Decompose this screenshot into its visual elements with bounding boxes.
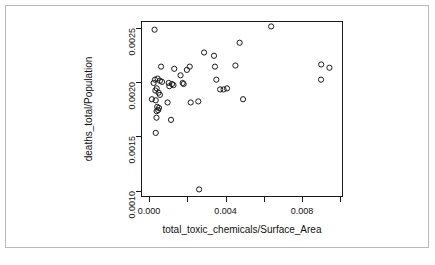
data-point [240, 97, 245, 102]
x-axis-tick [149, 197, 150, 202]
data-point [178, 73, 183, 78]
data-point [233, 63, 238, 68]
data-point [152, 27, 157, 32]
x-axis-tick [264, 197, 265, 202]
data-point [212, 64, 217, 69]
y-axis-tick [136, 82, 141, 83]
data-point [327, 65, 332, 70]
x-axis-title: total_toxic_chemicals/Surface_Area [141, 224, 343, 235]
data-point [237, 40, 242, 45]
y-axis-tick-label: 0.0015 [127, 136, 137, 164]
plot-area: 0.00100.00150.00200.00250.0000.0040.008 [141, 21, 343, 197]
data-point [197, 187, 202, 192]
x-axis-tick [187, 197, 188, 202]
data-point [151, 80, 156, 85]
data-point [172, 66, 177, 71]
y-axis-title: deaths_total/Population [81, 21, 95, 197]
y-axis-tick-label: 0.0010 [127, 191, 137, 219]
y-axis-tick [136, 136, 141, 137]
data-point [224, 86, 229, 91]
x-axis-tick-label: 0.000 [138, 206, 161, 216]
x-axis-tick [226, 197, 227, 202]
data-point [211, 53, 216, 58]
data-point [153, 130, 158, 135]
data-point [221, 87, 226, 92]
data-point [154, 115, 159, 120]
data-point [318, 77, 323, 82]
y-axis-tick-label: 0.0020 [127, 82, 137, 110]
data-point [187, 64, 192, 69]
data-point [269, 24, 274, 29]
data-point [168, 117, 173, 122]
x-axis-tick-label: 0.008 [291, 206, 314, 216]
x-axis-tick-label: 0.004 [214, 206, 237, 216]
y-axis-tick [136, 191, 141, 192]
y-axis-tick-label: 0.0025 [127, 28, 137, 56]
data-point [214, 77, 219, 82]
x-axis-tick [302, 197, 303, 202]
data-points-layer [141, 21, 343, 197]
x-axis-tick [340, 197, 341, 202]
y-axis-tick [136, 28, 141, 29]
data-point [201, 50, 206, 55]
scatter-plot-figure: deaths_total/Population 0.00100.00150.00… [0, 0, 435, 265]
data-point [184, 67, 189, 72]
data-point [196, 99, 201, 104]
data-point [188, 100, 193, 105]
data-point [158, 64, 163, 69]
data-point [319, 62, 324, 67]
data-point [165, 100, 170, 105]
